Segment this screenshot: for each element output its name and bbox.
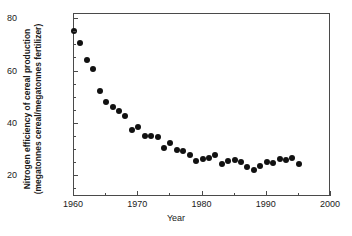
data-point — [277, 156, 283, 162]
y-axis-tick-label: 60 — [0, 66, 17, 76]
data-point — [116, 108, 122, 114]
x-axis-minor-tick — [234, 193, 235, 196]
y-axis-tick — [73, 71, 78, 72]
x-axis-tick — [137, 191, 138, 196]
scatter-series — [74, 14, 329, 195]
data-point — [283, 157, 289, 163]
y-axis-tick — [73, 123, 78, 124]
y-axis-minor-tick — [73, 136, 76, 137]
x-axis-tick — [330, 191, 331, 196]
data-point — [238, 159, 244, 165]
x-axis-tick-label: 2000 — [310, 199, 350, 209]
y-axis-minor-tick — [73, 188, 76, 189]
y-axis-title-line1: Nitrogen efficiency of cereal production — [22, 14, 33, 204]
data-point — [161, 145, 167, 151]
data-point — [251, 167, 257, 173]
y-axis-minor-tick — [73, 31, 76, 32]
y-axis-minor-tick — [73, 97, 76, 98]
y-axis-minor-tick — [73, 84, 76, 85]
y-axis-minor-tick — [73, 57, 76, 58]
data-point — [142, 133, 148, 139]
data-point — [135, 124, 141, 130]
y-axis-minor-tick — [73, 162, 76, 163]
y-axis-minor-tick — [73, 149, 76, 150]
y-axis-title-line2: (megatonnes cereal/megatonnes fertilizer… — [33, 14, 44, 204]
y-axis-minor-tick — [73, 44, 76, 45]
chart-figure: Nitrogen efficiency of cereal production… — [0, 0, 352, 236]
plot-area — [73, 13, 330, 196]
data-point — [257, 163, 263, 169]
x-axis-tick-label: 1980 — [182, 199, 222, 209]
x-axis-tick — [73, 191, 74, 196]
data-point — [206, 155, 212, 161]
data-point — [148, 133, 154, 139]
y-axis-tick-label: 40 — [0, 118, 17, 128]
data-point — [103, 99, 109, 105]
x-axis-minor-tick — [169, 193, 170, 196]
data-point — [77, 40, 83, 46]
data-point — [232, 157, 238, 163]
data-point — [90, 66, 96, 72]
x-axis-minor-tick — [298, 193, 299, 196]
data-point — [167, 140, 173, 146]
data-point — [212, 152, 218, 158]
data-point — [84, 57, 90, 63]
data-point — [193, 158, 199, 164]
data-point — [110, 104, 116, 110]
x-axis-tick-label: 1970 — [117, 199, 157, 209]
data-point — [200, 156, 206, 162]
y-axis-title: Nitrogen efficiency of cereal production… — [22, 14, 44, 204]
data-point — [289, 155, 295, 161]
y-axis-minor-tick — [73, 110, 76, 111]
data-point — [187, 152, 193, 158]
data-point — [180, 148, 186, 154]
data-point — [122, 113, 128, 119]
x-axis-tick-label: 1960 — [53, 199, 93, 209]
data-point — [225, 158, 231, 164]
data-point — [270, 160, 276, 166]
y-axis-tick — [73, 175, 78, 176]
data-point — [155, 134, 161, 140]
data-point — [296, 161, 302, 167]
x-axis-tick-label: 1990 — [246, 199, 286, 209]
data-point — [264, 159, 270, 165]
y-axis-tick-label: 20 — [0, 170, 17, 180]
data-point — [219, 161, 225, 167]
x-axis-title: Year — [0, 213, 352, 223]
x-axis-tick — [266, 191, 267, 196]
data-point — [129, 127, 135, 133]
data-point — [244, 164, 250, 170]
x-axis-minor-tick — [105, 193, 106, 196]
y-axis-tick-label: 80 — [0, 13, 17, 23]
y-axis-tick — [73, 18, 78, 19]
x-axis-tick — [202, 191, 203, 196]
data-point — [97, 88, 103, 94]
data-point — [174, 147, 180, 153]
